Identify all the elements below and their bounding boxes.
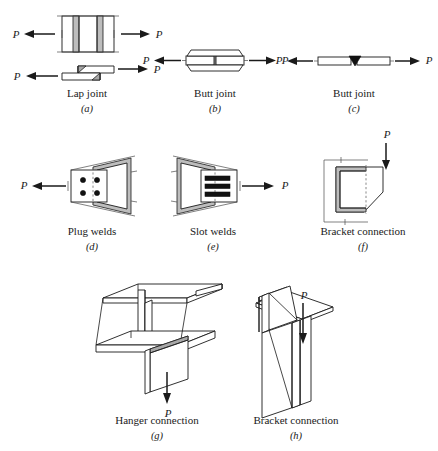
load-arrow-d xyxy=(32,182,66,190)
load-arrow-a3 xyxy=(26,72,58,80)
panel-h-bracket-connection: P Bracket connection (h) xyxy=(253,286,339,442)
load-label-b1: P xyxy=(142,54,150,66)
plug-welds-view: P xyxy=(20,156,137,216)
load-arrow-b2 xyxy=(249,57,276,65)
load-arrow-a2 xyxy=(121,30,150,38)
panel-d-plug-welds: P Plug welds (d) xyxy=(20,156,137,253)
caption-d: Plug welds xyxy=(68,225,117,237)
plug-weld-1 xyxy=(80,177,85,182)
subcaption-f: (f) xyxy=(358,241,368,253)
caption-b: Butt joint xyxy=(194,87,236,99)
subcaption-g: (g) xyxy=(151,430,164,442)
panel-c-butt-joint: P P Butt joint (c) xyxy=(275,54,433,115)
panel-e-slot-welds: P Slot welds (e) xyxy=(171,156,289,253)
subcaption-a: (a) xyxy=(81,103,94,115)
subcaption-b: (b) xyxy=(209,103,222,115)
plug-weld-4 xyxy=(94,190,99,195)
load-label-a1: P xyxy=(12,28,20,40)
load-arrow-c2 xyxy=(395,57,420,65)
gusset-plate-h xyxy=(292,320,300,408)
panel-g-hanger-connection: P Hanger connection (g) xyxy=(96,284,222,442)
load-arrow-c1 xyxy=(287,57,313,65)
lap-joint-elevation-view: P P xyxy=(13,63,161,82)
load-label-c2: P xyxy=(425,54,433,66)
slot-weld-1 xyxy=(205,176,230,181)
load-label-e: P xyxy=(281,179,289,191)
subcaption-e: (e) xyxy=(207,241,219,253)
caption-f: Bracket connection xyxy=(320,225,406,237)
load-label-a3: P xyxy=(13,70,21,82)
slot-welds-view: P xyxy=(171,156,289,216)
load-arrow-e xyxy=(242,182,274,190)
load-arrow-f xyxy=(382,143,390,170)
caption-c: Butt joint xyxy=(333,87,375,99)
bracket-h-isometric: P xyxy=(256,286,333,418)
subcaption-d: (d) xyxy=(86,241,99,253)
load-label-a4: P xyxy=(153,63,161,75)
subcaption-h: (h) xyxy=(290,430,303,442)
slot-weld-3 xyxy=(205,192,230,197)
bracket-plate-f xyxy=(336,167,383,212)
load-label-f: P xyxy=(383,128,391,140)
plug-weld-3 xyxy=(80,190,85,195)
load-arrow-a1 xyxy=(24,30,55,38)
plug-weld-2 xyxy=(94,177,99,182)
load-label-c1: P xyxy=(275,54,283,66)
butt-joint-b-elevation: P P xyxy=(142,50,289,71)
bracket-f-view: P xyxy=(324,128,391,225)
load-label-d: P xyxy=(20,179,28,191)
load-arrow-a4 xyxy=(118,65,148,73)
butt-joint-c-elevation: P P xyxy=(275,54,433,66)
caption-a: Lap joint xyxy=(67,87,107,99)
caption-g: Hanger connection xyxy=(115,414,199,426)
load-label-h: P xyxy=(300,289,308,301)
panel-f-bracket-connection: P Bracket connection (f) xyxy=(320,128,406,253)
caption-e: Slot welds xyxy=(190,225,236,237)
load-label-a2: P xyxy=(155,28,163,40)
caption-h: Bracket connection xyxy=(253,414,339,426)
slot-weld-2 xyxy=(205,184,230,189)
panel-a-lap-joint: P P P P Lap joint (a) xyxy=(12,16,163,115)
figure-sheet: P P P P Lap joint (a) xyxy=(0,0,438,451)
panel-b-butt-joint: P P Butt joint (b) xyxy=(142,50,289,115)
lap-joint-plan-view: P P xyxy=(12,16,163,52)
subcaption-c: (c) xyxy=(348,103,360,115)
hanger-beam-isometric: P xyxy=(96,284,222,419)
